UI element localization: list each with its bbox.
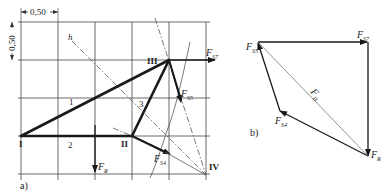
- part-b-label: b): [250, 127, 258, 139]
- scale-v-label: 0,50: [7, 35, 17, 51]
- scale-horizontal: 0,50: [21, 7, 58, 22]
- label-fs7-b: F S7: [356, 29, 370, 42]
- label-fh-b: F H: [307, 85, 325, 103]
- scale-h-label: 0,50: [30, 7, 46, 17]
- node-III-label: III: [147, 56, 158, 66]
- label-fs7-a: F S7: [205, 47, 219, 60]
- line-h-label: h: [68, 32, 73, 42]
- construction-line: [165, 152, 206, 175]
- label-sub: S5: [252, 48, 258, 54]
- label-fs5-a: F S5: [180, 88, 193, 101]
- node-I-label: I: [19, 139, 23, 149]
- scale-vertical: 0,50: [7, 22, 17, 60]
- part-b: F S5 F S7 F H F S4 F R b): [245, 29, 381, 162]
- member-3-label: 3: [139, 99, 144, 109]
- force-fs4-b: [280, 111, 368, 156]
- node-IV-label: IV: [209, 162, 220, 172]
- part-a: 0,50 0,50 h 1 2 3 I I: [7, 7, 220, 192]
- label-sub: S4: [281, 122, 287, 128]
- label-fs4-b: F S4: [274, 115, 287, 128]
- member-1-label: 1: [69, 97, 74, 107]
- label-sub: S4: [160, 160, 166, 166]
- label-sub: R: [376, 156, 381, 162]
- label-fs5-b: F S5: [245, 41, 258, 54]
- member-2-label: 2: [68, 140, 73, 150]
- truss-diagram: 0,50 0,50 h 1 2 3 I I: [0, 0, 385, 193]
- label-fr-b: F R: [370, 149, 381, 162]
- label-sub: R: [103, 168, 108, 174]
- label-fr-a: F R: [97, 161, 108, 174]
- label-sub: S5: [187, 95, 193, 101]
- part-a-label: a): [20, 180, 28, 192]
- label-sub: S7: [212, 54, 219, 60]
- node-II-label: II: [121, 139, 129, 149]
- force-fs5-arrow: [169, 60, 181, 102]
- label-sub: S7: [363, 36, 370, 42]
- label-fs4-a: F S4: [153, 153, 166, 166]
